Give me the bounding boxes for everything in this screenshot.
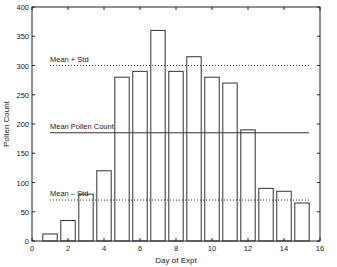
bar [241, 130, 255, 241]
bar [133, 71, 147, 241]
bar [151, 30, 165, 241]
y-tick-label: 200 [16, 120, 29, 129]
bar [187, 57, 201, 241]
y-tick-label: 0 [25, 237, 29, 246]
bar [43, 234, 57, 241]
bar [205, 77, 219, 241]
bar [115, 77, 129, 241]
bar-chart: Mean + StdMean Pollen CountMean – Std 05… [0, 0, 337, 267]
bar [97, 171, 111, 241]
y-tick-label: 250 [16, 91, 29, 100]
bar [259, 188, 273, 241]
y-tick-label: 350 [16, 32, 29, 41]
x-axis-label: Day of Expt [155, 256, 197, 265]
bar [169, 71, 183, 241]
y-tick-label: 300 [16, 62, 29, 71]
bar [61, 221, 75, 241]
reference-line-label: Mean + Std [50, 55, 89, 64]
x-tick-label: 8 [174, 244, 178, 253]
x-tick-label: 0 [30, 244, 34, 253]
x-tick-label: 14 [280, 244, 288, 253]
y-tick-label: 150 [16, 149, 29, 158]
bar [79, 194, 93, 241]
x-tick-label: 12 [244, 244, 252, 253]
reference-line-label: Mean Pollen Count [50, 122, 115, 131]
y-axis-label: Pollen Count [2, 100, 11, 147]
y-tick-label: 50 [21, 208, 29, 217]
y-tick-label: 400 [16, 3, 29, 12]
bar [277, 191, 291, 241]
bar [223, 83, 237, 241]
x-tick-label: 10 [208, 244, 216, 253]
reference-line-label: Mean – Std [50, 189, 88, 198]
x-tick-label: 6 [138, 244, 142, 253]
x-tick-label: 4 [102, 244, 106, 253]
x-tick-label: 2 [66, 244, 70, 253]
x-tick-label: 16 [316, 244, 324, 253]
bar [295, 203, 309, 241]
y-tick-label: 100 [16, 179, 29, 188]
